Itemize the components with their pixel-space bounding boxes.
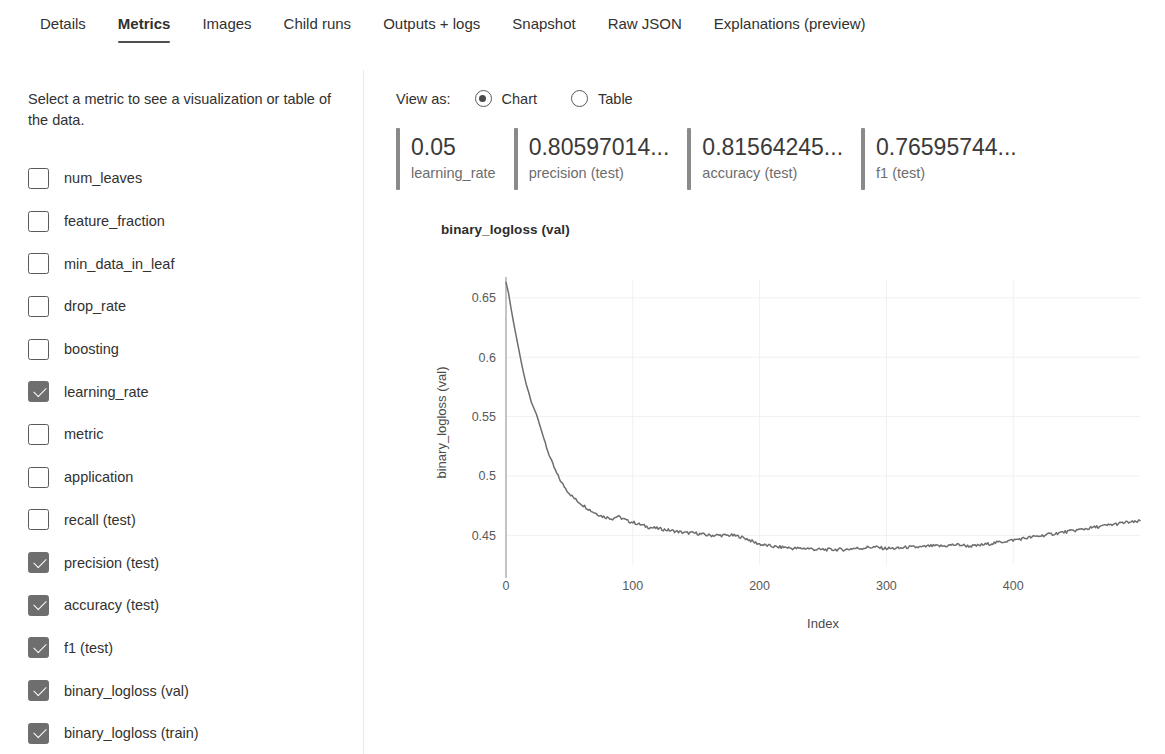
- checkbox-unchecked-icon[interactable]: [28, 168, 49, 189]
- kpi-value: 0.80597014...: [529, 134, 670, 161]
- metric-label: binary_logloss (train): [64, 725, 199, 741]
- kpi-metric-name: precision (test): [529, 164, 670, 184]
- tabbar-divider: [24, 59, 1142, 60]
- kpi-metric-name: f1 (test): [876, 164, 1017, 184]
- kpi-accent-bar: [861, 128, 865, 190]
- radio-chart-label: Chart: [502, 91, 537, 107]
- kpi-text-group: 0.81564245...accuracy (test): [702, 128, 843, 190]
- checkbox-checked-icon[interactable]: [28, 381, 49, 402]
- metric-label: boosting: [64, 341, 119, 357]
- metric-checkbox-row[interactable]: metric: [28, 413, 341, 456]
- metric-checkbox-row[interactable]: num_leaves: [28, 157, 341, 200]
- tab-snapshot[interactable]: Snapshot: [496, 0, 591, 45]
- tab-explanations-preview[interactable]: Explanations (preview): [698, 0, 882, 45]
- metric-checkbox-row[interactable]: accuracy (test): [28, 584, 341, 627]
- radio-option-chart[interactable]: Chart: [475, 90, 537, 107]
- metric-label: application: [64, 469, 133, 485]
- tab-label: Child runs: [284, 15, 352, 32]
- metric-label: learning_rate: [64, 384, 149, 400]
- tab-label: Snapshot: [512, 15, 575, 32]
- metric-label: binary_logloss (val): [64, 683, 189, 699]
- radio-table-label: Table: [598, 91, 633, 107]
- metric-label: drop_rate: [64, 298, 126, 314]
- checkbox-unchecked-icon[interactable]: [28, 339, 49, 360]
- checkbox-checked-icon[interactable]: [28, 680, 49, 701]
- y-axis-tick-label: 0.5: [479, 469, 496, 483]
- metric-checkbox-row[interactable]: recall (test): [28, 499, 341, 542]
- kpi-card-row: 0.05learning_rate0.80597014...precision …: [396, 128, 1035, 190]
- tab-bar: Details Metrics Images Child runs Output…: [0, 0, 1165, 59]
- metric-label: accuracy (test): [64, 597, 159, 613]
- checkbox-checked-icon[interactable]: [28, 552, 49, 573]
- y-axis-tick-label: 0.65: [472, 291, 496, 305]
- tab-label: Metrics: [118, 15, 171, 32]
- metric-checkbox-row[interactable]: f1 (test): [28, 627, 341, 670]
- metric-checkbox-row[interactable]: boosting: [28, 328, 341, 371]
- y-axis-tick-label: 0.55: [472, 410, 496, 424]
- kpi-value: 0.05: [411, 134, 496, 161]
- metric-checkbox-row[interactable]: application: [28, 456, 341, 499]
- metric-checkbox-row[interactable]: min_data_in_leaf: [28, 242, 341, 285]
- metric-checkbox-row[interactable]: precision (test): [28, 541, 341, 584]
- metric-label: min_data_in_leaf: [64, 256, 174, 272]
- checkbox-unchecked-icon[interactable]: [28, 296, 49, 317]
- x-axis-tick-label: 200: [749, 579, 770, 593]
- tab-details[interactable]: Details: [24, 0, 102, 45]
- kpi-text-group: 0.76595744...f1 (test): [876, 128, 1017, 190]
- metric-label: recall (test): [64, 512, 136, 528]
- x-axis-tick-label: 300: [876, 579, 897, 593]
- radio-option-table[interactable]: Table: [571, 90, 633, 107]
- kpi-text-group: 0.05learning_rate: [411, 128, 496, 190]
- metric-checkbox-row[interactable]: drop_rate: [28, 285, 341, 328]
- metric-checkbox-row[interactable]: learning_rate: [28, 370, 341, 413]
- sidebar-help-text: Select a metric to see a visualization o…: [28, 89, 348, 131]
- tab-child-runs[interactable]: Child runs: [268, 0, 368, 45]
- view-as-label: View as:: [396, 91, 451, 107]
- kpi-metric-name: accuracy (test): [702, 164, 843, 184]
- tab-outputs-logs[interactable]: Outputs + logs: [367, 0, 496, 45]
- metric-label: metric: [64, 426, 103, 442]
- radio-chart-icon[interactable]: [475, 90, 492, 107]
- kpi-accent-bar: [514, 128, 518, 190]
- checkbox-checked-icon[interactable]: [28, 595, 49, 616]
- tab-label: Outputs + logs: [383, 15, 480, 32]
- metric-checkbox-row[interactable]: binary_logloss (train): [28, 712, 341, 754]
- tab-raw-json[interactable]: Raw JSON: [592, 0, 698, 45]
- tab-label: Raw JSON: [608, 15, 682, 32]
- checkbox-unchecked-icon[interactable]: [28, 253, 49, 274]
- checkbox-unchecked-icon[interactable]: [28, 211, 49, 232]
- x-axis-tick-label: 400: [1003, 579, 1024, 593]
- metric-label: precision (test): [64, 555, 159, 571]
- tab-label: Explanations (preview): [714, 15, 866, 32]
- metric-selector-panel: Select a metric to see a visualization o…: [0, 62, 363, 754]
- checkbox-checked-icon[interactable]: [28, 723, 49, 744]
- metric-checkbox-row[interactable]: binary_logloss (val): [28, 669, 341, 712]
- kpi-value: 0.76595744...: [876, 134, 1017, 161]
- metric-label: f1 (test): [64, 640, 113, 656]
- radio-table-icon[interactable]: [571, 90, 588, 107]
- tab-metrics[interactable]: Metrics: [102, 0, 187, 45]
- metric-checkbox-row[interactable]: feature_fraction: [28, 200, 341, 243]
- tab-label: Details: [40, 15, 86, 32]
- checkbox-unchecked-icon[interactable]: [28, 424, 49, 445]
- kpi-card: 0.80597014...precision (test): [514, 128, 670, 190]
- chart-container: binary_logloss (val) 0.450.50.550.60.650…: [364, 217, 1165, 717]
- view-as-control-group: View as: Chart Table: [396, 90, 667, 107]
- x-axis-tick-label: 100: [622, 579, 643, 593]
- line-chart[interactable]: 0.450.50.550.60.650100200300400binary_lo…: [364, 217, 1165, 717]
- checkbox-unchecked-icon[interactable]: [28, 467, 49, 488]
- kpi-metric-name: learning_rate: [411, 164, 496, 184]
- kpi-text-group: 0.80597014...precision (test): [529, 128, 670, 190]
- checkbox-unchecked-icon[interactable]: [28, 509, 49, 530]
- y-axis-tick-label: 0.6: [479, 351, 496, 365]
- y-axis-title: binary_logloss (val): [434, 367, 449, 479]
- kpi-accent-bar: [687, 128, 691, 190]
- tab-images[interactable]: Images: [186, 0, 267, 45]
- kpi-value: 0.81564245...: [702, 134, 843, 161]
- kpi-card: 0.05learning_rate: [396, 128, 496, 190]
- metric-checkbox-list: num_leavesfeature_fractionmin_data_in_le…: [28, 157, 341, 754]
- metric-label: num_leaves: [64, 170, 142, 186]
- kpi-card: 0.76595744...f1 (test): [861, 128, 1017, 190]
- checkbox-checked-icon[interactable]: [28, 637, 49, 658]
- kpi-accent-bar: [396, 128, 400, 190]
